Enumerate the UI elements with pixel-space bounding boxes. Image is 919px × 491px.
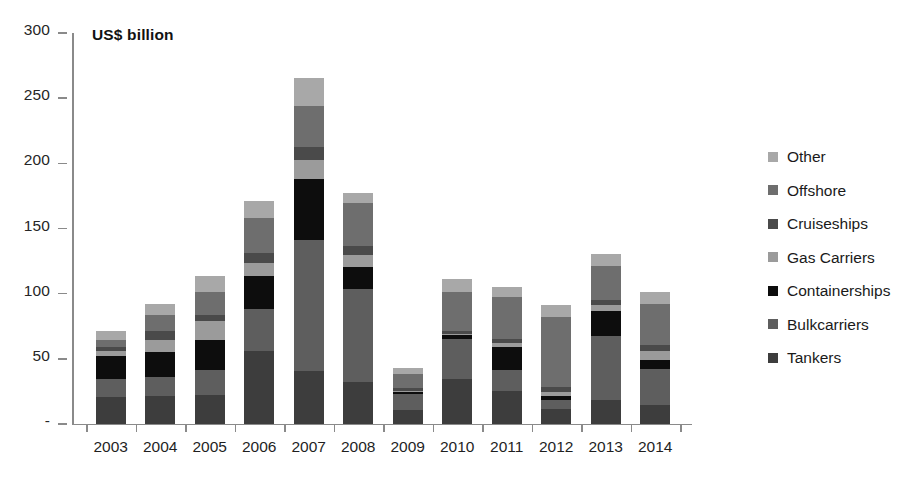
bar-segment xyxy=(343,267,373,289)
x-axis-tick-mark xyxy=(383,424,385,432)
bar-segment xyxy=(244,351,274,424)
y-axis-tick-label: 100 xyxy=(24,283,50,299)
bar-segment xyxy=(442,292,472,331)
bar-segment xyxy=(145,352,175,377)
bar-segment xyxy=(96,356,126,379)
bar-segment xyxy=(244,201,274,218)
x-axis-tick-mark xyxy=(631,424,633,432)
bar-segment xyxy=(244,253,274,263)
x-axis-tick-mark xyxy=(334,424,336,432)
x-axis-tick-label: 2008 xyxy=(334,439,384,455)
legend-swatch-icon xyxy=(768,152,778,162)
y-axis-tick-label: 200 xyxy=(24,152,50,168)
y-axis-line xyxy=(72,33,74,424)
bar-segment xyxy=(591,266,621,300)
legend-item[interactable]: Tankers xyxy=(768,341,918,375)
x-axis-tick-mark xyxy=(235,424,237,432)
legend-item-label: Offshore xyxy=(787,183,846,199)
x-axis-tick-label: 2005 xyxy=(185,439,235,455)
bar-segment xyxy=(541,305,571,317)
bar-segment xyxy=(145,377,175,397)
legend-item[interactable]: Cruiseships xyxy=(768,207,918,241)
bar-segment xyxy=(294,160,324,178)
bar-segment xyxy=(492,370,522,391)
x-axis-tick-label: 2011 xyxy=(482,439,532,455)
x-axis-tick-label: 2006 xyxy=(235,439,285,455)
legend-swatch-icon xyxy=(768,185,778,195)
y-axis-tick-label: - xyxy=(45,413,50,429)
y-axis-tick-mark xyxy=(58,32,67,34)
bar-segment xyxy=(541,317,571,387)
bar-segment xyxy=(294,78,324,105)
x-axis-tick-mark xyxy=(532,424,534,432)
bar-segment xyxy=(294,106,324,148)
bar-segment xyxy=(343,382,373,424)
bar-segment xyxy=(294,179,324,240)
legend-item[interactable]: Offshore xyxy=(768,174,918,208)
x-axis-tick-label: 2007 xyxy=(284,439,334,455)
bar-segment xyxy=(244,276,274,309)
stacked-bar xyxy=(244,201,274,424)
bar-segment xyxy=(244,218,274,253)
bar-segment xyxy=(145,304,175,316)
y-axis-tick-label: 50 xyxy=(33,348,50,364)
legend-swatch-icon xyxy=(768,353,778,363)
legend-item-label: Cruiseships xyxy=(787,216,868,232)
x-axis-tick-mark xyxy=(185,424,187,432)
x-axis-tick-mark xyxy=(284,424,286,432)
y-axis-tick-mark xyxy=(58,293,67,295)
stacked-bar xyxy=(343,193,373,424)
legend-swatch-icon xyxy=(768,252,778,262)
bar-segment xyxy=(541,409,571,423)
stacked-bar xyxy=(492,287,522,424)
bar-segment xyxy=(96,379,126,397)
stacked-bar xyxy=(442,279,472,424)
bar-segment xyxy=(442,379,472,423)
bar-segment xyxy=(591,254,621,266)
x-axis-tick-label: 2009 xyxy=(383,439,433,455)
bar-segment xyxy=(393,374,423,388)
chart-legend: OtherOffshoreCruiseshipsGas CarriersCont… xyxy=(768,140,918,375)
bar-segment xyxy=(96,331,126,340)
legend-item[interactable]: Other xyxy=(768,140,918,174)
stacked-bar xyxy=(96,331,126,423)
bar-segment xyxy=(195,340,225,370)
stacked-bar xyxy=(294,78,324,423)
bar-segment xyxy=(640,292,670,304)
bar-segment xyxy=(492,347,522,370)
bar-segment xyxy=(244,309,274,351)
x-axis-tick-label: 2013 xyxy=(581,439,631,455)
legend-item[interactable]: Bulkcarriers xyxy=(768,308,918,342)
x-axis-tick-mark xyxy=(433,424,435,432)
legend-item[interactable]: Gas Carriers xyxy=(768,241,918,275)
stacked-bar-chart: US$ billion 30025020015010050- 200320042… xyxy=(0,0,919,491)
bar-segment xyxy=(343,289,373,382)
bar-segment xyxy=(640,360,670,369)
bar-segment xyxy=(591,311,621,336)
bar-segment xyxy=(244,263,274,276)
bar-segment xyxy=(343,203,373,246)
x-axis-tick-mark xyxy=(482,424,484,432)
bar-segment xyxy=(591,400,621,423)
legend-item[interactable]: Containerships xyxy=(768,274,918,308)
x-axis-tick-mark xyxy=(86,424,88,432)
x-axis-tick-label: 2004 xyxy=(136,439,186,455)
x-axis-tick-mark xyxy=(581,424,583,432)
legend-item-label: Containerships xyxy=(787,283,890,299)
stacked-bar xyxy=(195,276,225,423)
bar-segment xyxy=(145,396,175,423)
bar-segment xyxy=(96,397,126,423)
bar-segment xyxy=(195,370,225,395)
y-axis-tick-mark xyxy=(58,228,67,230)
bar-segment xyxy=(294,240,324,372)
stacked-bar xyxy=(640,292,670,424)
y-axis-tick-label: 250 xyxy=(24,87,50,103)
y-axis-tick-mark xyxy=(58,358,67,360)
bar-segment xyxy=(393,410,423,423)
y-axis-tick-mark xyxy=(58,423,67,425)
legend-swatch-icon xyxy=(768,319,778,329)
x-axis-tick-mark xyxy=(680,424,682,432)
legend-item-label: Other xyxy=(787,149,826,165)
bar-segment xyxy=(145,340,175,352)
plot-area: 30025020015010050- 200320042005200620072… xyxy=(72,25,692,429)
